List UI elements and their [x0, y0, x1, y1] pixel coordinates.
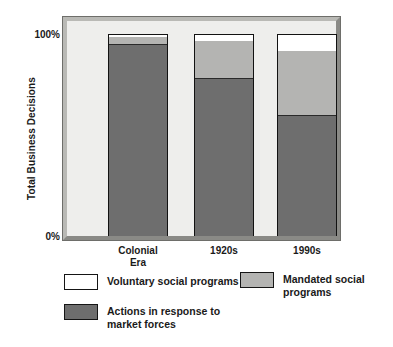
- legend-item-voluntary: Voluntary social programs: [64, 274, 239, 290]
- legend-swatch-mandated-icon: [240, 272, 274, 288]
- legend-item-market-forces: Actions in response to market forces: [64, 304, 220, 330]
- legend-label-mandated: Mandated social programs: [283, 272, 365, 298]
- legend-label-voluntary: Voluntary social programs: [107, 274, 239, 288]
- chart-legend: Voluntary social programs Mandated socia…: [0, 0, 393, 347]
- legend-swatch-market-forces-icon: [64, 304, 98, 320]
- legend-label-market-forces: Actions in response to market forces: [107, 304, 220, 330]
- legend-swatch-voluntary-icon: [64, 274, 98, 290]
- legend-item-mandated: Mandated social programs: [240, 272, 365, 298]
